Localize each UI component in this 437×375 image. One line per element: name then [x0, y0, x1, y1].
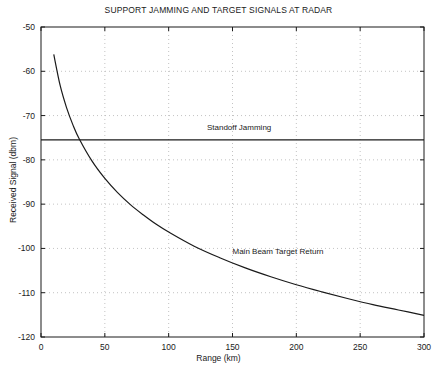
- x-tick-label: 0: [21, 342, 61, 352]
- gridlines: [41, 27, 424, 337]
- y-tick-label: -50: [2, 22, 35, 32]
- y-tick-label: -60: [2, 66, 35, 76]
- x-tick-label: 250: [340, 342, 380, 352]
- y-tick-label: -70: [2, 111, 35, 121]
- y-tick-label: -100: [2, 243, 35, 253]
- y-tick-label: -110: [2, 288, 35, 298]
- main-beam-target-return-curve: [54, 54, 424, 315]
- y-tick-label: -120: [2, 332, 35, 342]
- y-tick-label: -80: [2, 155, 35, 165]
- plot-frame: [41, 27, 424, 337]
- annotation-main-beam-target-return: Main Beam Target Return: [233, 247, 324, 256]
- x-tick-label: 300: [404, 342, 437, 352]
- y-tick-label: -90: [2, 199, 35, 209]
- annotation-standoff-jamming: Standoff Jamming: [207, 123, 271, 132]
- plot-canvas: [0, 0, 437, 375]
- x-axis-title: Range (km): [0, 353, 437, 363]
- x-tick-label: 100: [149, 342, 189, 352]
- x-tick-label: 200: [276, 342, 316, 352]
- x-tick-label: 50: [85, 342, 125, 352]
- chart-figure: SUPPORT JAMMING AND TARGET SIGNALS AT RA…: [0, 0, 437, 375]
- y-axis-title: Received Signal (dbm): [8, 115, 18, 245]
- x-tick-label: 150: [213, 342, 253, 352]
- axis-ticks: [41, 27, 424, 337]
